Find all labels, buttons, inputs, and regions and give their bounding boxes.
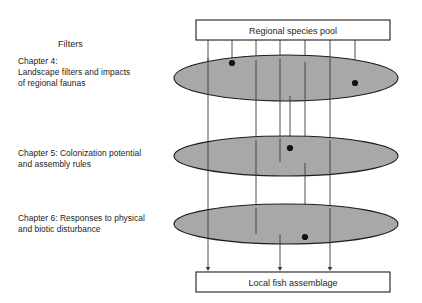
regional-species-pool-label: Regional species pool [249,26,337,36]
diagram-page: Regional species pool Local fish assembl… [0,0,422,303]
filter-label-chapter4: Chapter 4: Landscape filters and impacts… [18,56,130,89]
filter-label-chapter6: Chapter 6: Responses to physical and bio… [18,213,145,235]
filtered-species-dot [229,60,235,66]
filtered-species-dot [287,145,293,151]
local-fish-assemblage-label: Local fish assemblage [248,278,337,288]
filter-label-chapter5: Chapter 5: Colonization potential and as… [18,148,141,170]
filters-heading: Filters [58,39,83,50]
filtered-species-dot [352,80,358,86]
filtered-species-dot [302,234,308,240]
